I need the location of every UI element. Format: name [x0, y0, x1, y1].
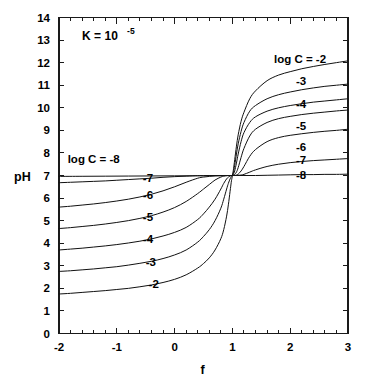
curve-left-label: -4	[143, 233, 154, 245]
y-tick-label: 13	[37, 34, 50, 46]
y-tick-label: 2	[44, 282, 50, 294]
x-tick-label: -1	[112, 341, 123, 353]
x-axis-title: f	[201, 363, 206, 377]
x-axis-tick-labels: -2-10123	[54, 341, 351, 353]
y-tick-label: 7	[44, 170, 50, 182]
x-tick-label: -2	[54, 341, 64, 353]
y-tick-label: 1	[44, 305, 51, 317]
curve-right-label: -7	[296, 154, 306, 166]
curve-right-label: -8	[296, 169, 307, 181]
x-tick-label: 1	[229, 341, 236, 353]
y-tick-label: 10	[37, 102, 50, 114]
y-tick-label: 11	[38, 79, 51, 91]
y-tick-label: 14	[37, 12, 50, 24]
y-tick-label: 4	[44, 237, 51, 249]
curve-right-label: -4	[296, 98, 307, 110]
curve-left-label: -6	[143, 189, 153, 201]
equilibrium-constant-annotation: K = 10	[82, 29, 118, 43]
y-tick-label: 12	[37, 57, 50, 69]
y-tick-label: 9	[44, 124, 50, 136]
curve-left-label: -7	[143, 172, 153, 184]
equilibrium-constant-exponent: -5	[127, 26, 135, 36]
x-tick-label: 3	[345, 341, 351, 353]
curve-left-label: -2	[149, 278, 159, 290]
curve-left-label: log C = -8	[68, 153, 121, 165]
curve-left-label: -5	[143, 211, 154, 223]
x-tick-label: 2	[287, 341, 293, 353]
curve-left-label: -3	[146, 256, 156, 268]
y-tick-label: 8	[44, 147, 51, 159]
y-axis-tick-labels: 01234567891011121314	[37, 12, 50, 340]
curve-labels: -2log C = -2-3-3-4-4-5-5-6-6-7-7log C = …	[68, 53, 326, 291]
y-tick-label: 0	[44, 328, 50, 340]
y-tick-label: 5	[44, 215, 51, 227]
y-axis-title: pH	[14, 170, 31, 184]
curve-right-label: -3	[296, 75, 306, 87]
chart-container: -2-10123 01234567891011121314 -2log C = …	[0, 0, 380, 384]
curve-right-label: -5	[296, 120, 307, 132]
curve-right-label: -6	[296, 141, 306, 153]
ph-vs-f-line-chart: -2-10123 01234567891011121314 -2log C = …	[0, 0, 380, 384]
x-tick-label: 0	[171, 341, 177, 353]
curve-right-label: log C = -2	[274, 53, 326, 65]
y-tick-label: 6	[44, 192, 50, 204]
y-tick-label: 3	[44, 260, 50, 272]
